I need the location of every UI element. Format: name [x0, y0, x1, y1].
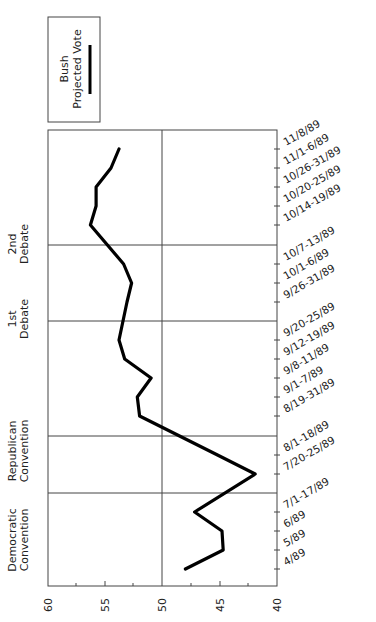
legend-label-bush: Bush [58, 55, 71, 82]
annotation-democratic-convention: Convention [18, 509, 31, 572]
cat-label: 4/89 [281, 546, 307, 568]
bush-projected-vote-chart: Bush Projected Vote 60 55 50 45 40 [0, 0, 376, 622]
tick-55: 55 [99, 598, 112, 612]
tick-50: 50 [156, 598, 169, 612]
tick-60: 60 [42, 598, 55, 612]
event-annotations: Democratic Convention Republican Convent… [6, 224, 31, 572]
tick-45: 45 [214, 598, 227, 612]
value-axis-labels: 60 55 50 45 40 [42, 598, 284, 612]
annotation-2nd-debate: Debate [18, 224, 31, 264]
annotation-republican-convention: Convention [18, 420, 31, 483]
annotation-1st-debate: Debate [18, 299, 31, 339]
cat-label: 6/89 [281, 508, 307, 530]
category-labels: 4/89 5/89 6/89 7/1-17/89 7/20-25/89 8/1-… [281, 117, 343, 568]
legend: Bush Projected Vote [48, 17, 100, 122]
cat-label: 5/89 [281, 527, 307, 549]
tick-40: 40 [271, 598, 284, 612]
legend-label-projected-vote: Projected Vote [71, 29, 84, 109]
cat-label: 7/1-17/89 [281, 475, 331, 511]
